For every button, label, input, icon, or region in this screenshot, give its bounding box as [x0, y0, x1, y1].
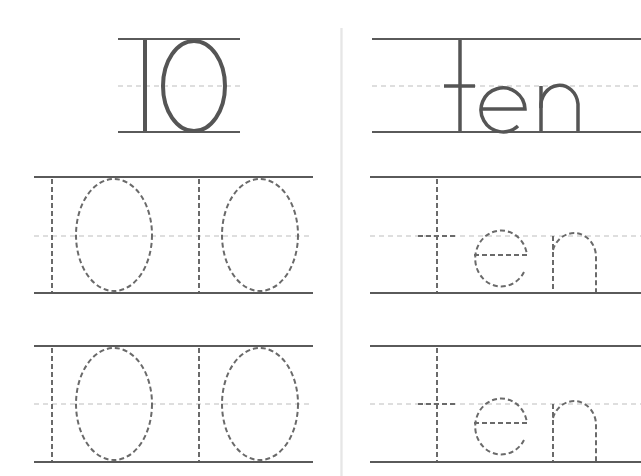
dashed-letter-e-1 [474, 231, 527, 287]
dashed-zero-2 [222, 179, 298, 291]
dashed-letter-n-1 [553, 233, 596, 292]
word-model-row [372, 39, 641, 132]
letter-t-solid [444, 40, 475, 131]
dashed-zero-1 [76, 179, 152, 291]
number-trace-row-1[interactable] [34, 177, 313, 293]
worksheet: 10 ten 10 10 10 10 ten ten [0, 0, 641, 476]
word-trace-row-1[interactable] [370, 177, 641, 293]
dashed-letter-e-2 [474, 399, 527, 455]
number-model-row [118, 39, 240, 132]
dashed-zero-3 [76, 348, 152, 460]
letter-n-solid [541, 85, 578, 131]
word-trace-row-2[interactable] [370, 346, 641, 462]
letter-e-solid [481, 88, 525, 132]
dashed-letter-n-2 [553, 401, 596, 461]
dashed-letter-t-1 [418, 179, 456, 292]
dashed-letter-t-2 [418, 348, 456, 461]
number-trace-row-2[interactable] [34, 346, 313, 462]
worksheet-drawing [0, 0, 641, 476]
